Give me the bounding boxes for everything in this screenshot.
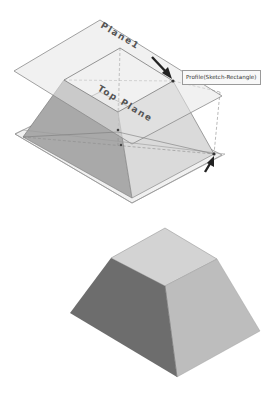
vertex-point[interactable] xyxy=(171,79,174,82)
profile-tooltip: Profile(Sketch-Rectangle) xyxy=(182,70,261,85)
loft-diagram: Plane1 Top Plane xyxy=(0,0,279,396)
vertex-point xyxy=(117,129,120,132)
vertex-point[interactable] xyxy=(212,152,215,155)
hidden-edge xyxy=(214,92,220,154)
vertex-point xyxy=(120,144,122,146)
